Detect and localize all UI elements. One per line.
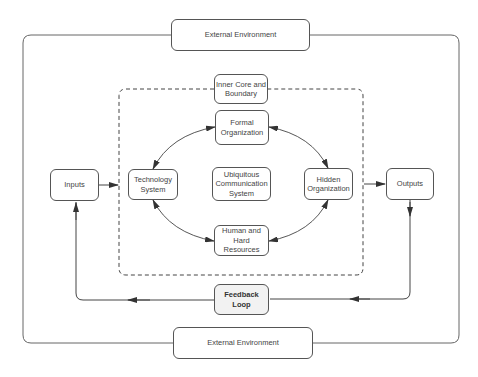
human-hard-resources-node: Human and Hard Resources [214, 225, 269, 256]
arc-formal-hidden [269, 127, 328, 168]
hidden-organization-node: Hidden Organization [304, 168, 353, 200]
arrow-feedback-to-inputs [76, 202, 214, 300]
feedback-loop-node: Feedback Loop [214, 284, 269, 315]
arrow-outputs-to-feedback [270, 200, 410, 299]
ubiquitous-communication-node: Ubiquitous Communication System [212, 167, 271, 201]
inputs-node: Inputs [50, 169, 99, 201]
arc-hidden-human [269, 200, 328, 241]
external-environment-top: External Environment [171, 19, 310, 51]
arc-technology-formal [153, 127, 215, 169]
outputs-node: Outputs [386, 168, 434, 200]
formal-organization-node: Formal Organization [215, 110, 269, 145]
inner-core-boundary-label: Inner Core and Boundary [214, 74, 268, 104]
external-environment-bottom: External Environment [173, 327, 313, 359]
technology-system-node: Technology System [128, 169, 178, 200]
arc-human-technology [153, 200, 214, 241]
